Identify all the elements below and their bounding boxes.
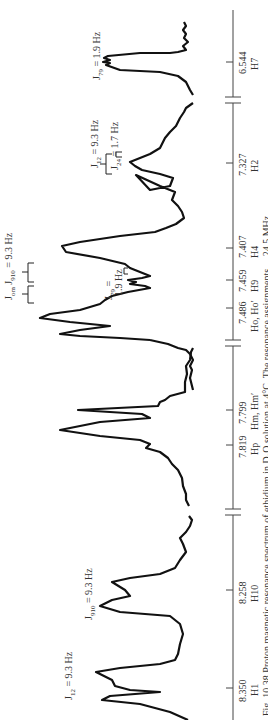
annotation-j12-h2: J12 = 9.3 Hz [89,119,103,168]
tick-7486: 7.486 [237,302,248,325]
shift-axis [225,10,241,720]
trace-segment-hp-hm [60,348,193,506]
brace-jom [22,286,34,303]
tick-7799: 7.799 [237,402,248,425]
trace-segment-h7 [103,22,193,95]
annotation-j910-h10: J910 = 9.3 Hz [83,568,97,620]
annotation-j24: J24 = 1.7 Hz [109,121,123,170]
brace-j79-h9 [124,268,128,274]
nmr-spectrum-figure: 6.544 H7 7.327 H2 7.407 H4 7.459 H9 7.48… [0,0,268,720]
tick-7459: 7.459 [237,270,248,293]
label-h2: H2 [249,160,260,172]
tick-7407: 7.407 [237,236,248,259]
annotation-j79-h9-value: 1.9 Hz [113,269,124,296]
label-h4: H4 [249,246,260,258]
coupling-annotations: J79 = 1.9 Hz J24 = 1.7 Hz J12 = 9.3 Hz J… [3,31,128,700]
annotation-j79-h7: J79 = 1.9 Hz [91,31,105,80]
trace-segment-h10-h1 [96,516,192,720]
tick-labels: 6.544 H7 7.327 H2 7.407 H4 7.459 H9 7.48… [237,52,260,703]
tick-8258: 8.258 [237,582,248,605]
tick-8350: 8.350 [237,680,248,703]
label-hp: Hp [249,443,260,455]
label-h9: H9 [249,280,260,292]
label-h1: H1 [249,684,260,696]
label-hm: Hm, Hm′ [249,393,260,430]
tick-7819: 7.819 [237,436,248,459]
brace-j910-h9 [22,263,34,282]
annotation-jom-j910: Jom J910 = 9.3 Hz [3,232,17,300]
label-h7: H7 [249,58,260,70]
tick-6544: 6.544 [237,52,248,75]
label-h10: H10 [249,585,260,602]
spectrum-svg: 6.544 H7 7.327 H2 7.407 H4 7.459 H9 7.48… [0,0,268,720]
label-ho: Ho, Ho′ [249,300,260,332]
annotation-j12-h1: J12 = 9.3 Hz [63,651,77,700]
figure-caption: Fig. 10.38 Proton magnetic resonance spe… [261,215,268,716]
tick-7327: 7.327 [237,154,248,177]
